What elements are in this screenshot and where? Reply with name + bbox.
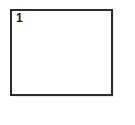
figure-panel-1[interactable]: 1	[10, 9, 113, 96]
screenshot-root: 1	[0, 0, 135, 125]
figure-canvas	[12, 11, 111, 94]
panel-label: 1	[16, 12, 23, 24]
